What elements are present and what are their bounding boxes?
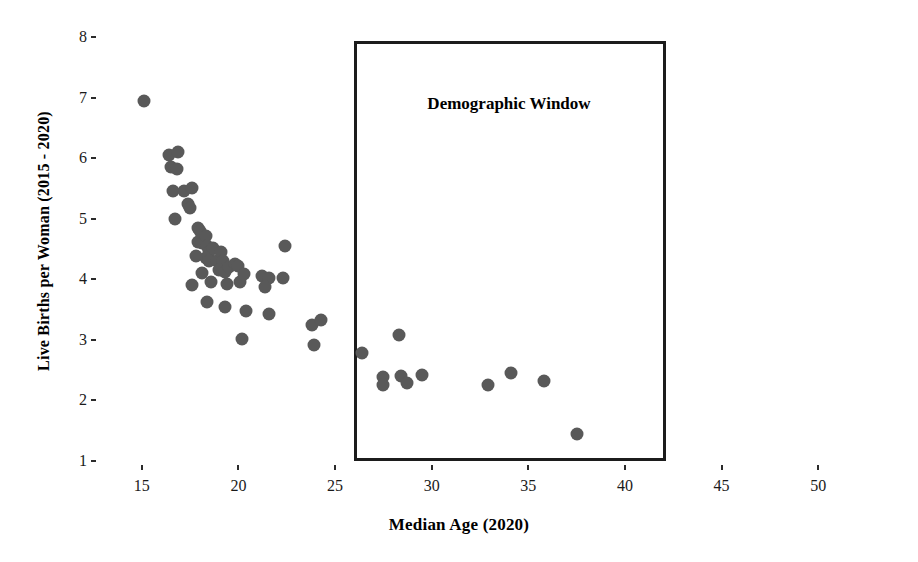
data-point — [172, 146, 185, 159]
data-point — [307, 338, 320, 351]
data-point — [537, 375, 550, 388]
x-tick-mark — [527, 465, 529, 470]
data-point — [356, 347, 369, 360]
x-tick-mark — [141, 465, 143, 470]
x-tick-mark — [624, 465, 626, 470]
y-tick-mark — [91, 278, 96, 280]
y-tick-label: 8 — [53, 28, 87, 46]
data-point — [400, 377, 413, 390]
data-point — [481, 379, 494, 392]
data-point — [276, 272, 289, 285]
x-tick-label: 15 — [112, 477, 172, 495]
data-point — [416, 368, 429, 381]
x-axis-label: Median Age (2020) — [0, 515, 918, 535]
y-tick-label: 6 — [53, 149, 87, 167]
x-tick-label: 35 — [498, 477, 558, 495]
scatter-chart-figure: Live Births per Woman (2015 - 2020) 1234… — [0, 0, 918, 562]
y-tick-label: 7 — [53, 89, 87, 107]
data-point — [205, 276, 218, 289]
data-point — [570, 427, 583, 440]
y-tick-mark — [91, 97, 96, 99]
x-tick-mark — [817, 465, 819, 470]
data-point — [170, 163, 183, 176]
data-point — [137, 94, 150, 107]
x-tick-label: 50 — [788, 477, 848, 495]
data-point — [168, 212, 181, 225]
data-point — [236, 332, 249, 345]
data-point — [377, 379, 390, 392]
x-tick-mark — [237, 465, 239, 470]
data-point — [220, 278, 233, 291]
demographic-window-label: Demographic Window — [427, 94, 590, 114]
data-point — [218, 300, 231, 313]
y-tick-mark — [91, 218, 96, 220]
x-tick-mark — [721, 465, 723, 470]
y-tick-mark — [91, 339, 96, 341]
data-point — [185, 182, 198, 195]
x-tick-label: 40 — [595, 477, 655, 495]
y-tick-mark — [91, 157, 96, 159]
data-point — [315, 314, 328, 327]
data-point — [201, 296, 214, 309]
x-tick-label: 25 — [305, 477, 365, 495]
x-tick-label: 30 — [402, 477, 462, 495]
y-tick-mark — [91, 460, 96, 462]
data-point — [263, 308, 276, 321]
x-tick-mark — [431, 465, 433, 470]
y-tick-mark — [91, 399, 96, 401]
x-tick-label: 20 — [208, 477, 268, 495]
data-point — [184, 201, 197, 214]
x-tick-mark — [334, 465, 336, 470]
data-point — [189, 250, 202, 263]
data-point — [392, 329, 405, 342]
y-tick-label: 4 — [53, 270, 87, 288]
y-tick-label: 1 — [53, 452, 87, 470]
data-point — [185, 279, 198, 292]
data-point — [240, 304, 253, 317]
y-tick-label: 2 — [53, 391, 87, 409]
data-point — [278, 239, 291, 252]
plot-area: 12345678 1520253035404550 Demographic Wi… — [0, 0, 918, 562]
data-point — [259, 280, 272, 293]
x-tick-label: 45 — [692, 477, 752, 495]
y-tick-label: 5 — [53, 210, 87, 228]
data-point — [504, 367, 517, 380]
y-tick-mark — [91, 36, 96, 38]
y-tick-label: 3 — [53, 331, 87, 349]
data-point — [238, 268, 251, 281]
